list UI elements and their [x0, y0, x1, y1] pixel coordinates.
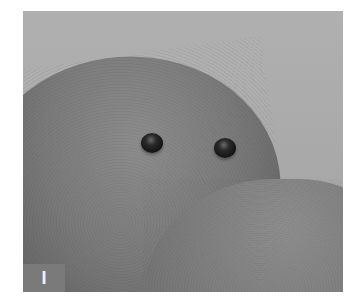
- lower-fingertip: [143, 179, 343, 292]
- panel-label: I: [23, 264, 65, 292]
- bead-left: [141, 133, 163, 153]
- fingerprint-texture: [143, 179, 343, 292]
- photograph: [23, 11, 343, 292]
- bead-right: [214, 138, 236, 158]
